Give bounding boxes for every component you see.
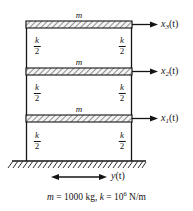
shear-frame-diagram: m m m x3(t) x2(t) x1(t) y(t) k 2 k 2 k 2…: [0, 0, 193, 211]
base-excitation-arrow: [51, 174, 107, 180]
x3-subscript: 3: [165, 23, 169, 31]
spring-numerator: k: [119, 36, 126, 45]
spring-label-story2-right: k 2: [119, 83, 126, 103]
floor-3-mass-label: m: [76, 11, 83, 20]
ground-hatching: [8, 161, 146, 168]
spring-numerator: k: [34, 36, 41, 45]
spring-numerator: k: [119, 131, 126, 140]
spring-denominator: 2: [119, 47, 126, 56]
figure-caption: m = 1000 kg, k = 106 N/m: [0, 192, 193, 202]
spring-numerator: k: [119, 83, 126, 92]
caption-mass-value: 1000 kg,: [64, 192, 97, 202]
displacement-label-x2: x2(t): [161, 66, 178, 76]
displacement-arrows: [132, 21, 158, 121]
floor-3-mass-bar: [26, 21, 132, 28]
arrow-x1: [132, 115, 158, 121]
caption-stiffness-units: N/m: [129, 192, 146, 202]
spring-label-story3-left: k 2: [34, 36, 41, 56]
displacement-label-x3: x3(t): [161, 19, 178, 29]
spring-numerator: k: [34, 83, 41, 92]
displacement-label-x1: x1(t): [161, 113, 178, 123]
x1-subscript: 1: [165, 117, 169, 125]
y-argument: (t): [115, 170, 124, 181]
spring-label-story2-left: k 2: [34, 83, 41, 103]
floor-2-mass-bar: [26, 68, 132, 75]
x2-subscript: 2: [165, 70, 169, 78]
arrow-x2: [132, 68, 158, 74]
floor-1-mass-bar: [26, 115, 132, 122]
frame-columns: [27, 21, 132, 161]
spring-denominator: 2: [119, 94, 126, 103]
spring-label-story1-right: k 2: [119, 131, 126, 151]
floor-2-mass-label: m: [76, 58, 83, 67]
arrow-x3: [132, 21, 158, 27]
spring-label-story1-left: k 2: [34, 131, 41, 151]
x2-argument: (t): [169, 65, 178, 76]
caption-mass-symbol: m: [47, 192, 54, 202]
spring-label-story3-right: k 2: [119, 36, 126, 56]
base-excitation-label: y(t): [111, 171, 125, 181]
ground-support: [8, 161, 146, 168]
x1-argument: (t): [169, 112, 178, 123]
spring-denominator: 2: [34, 94, 41, 103]
x3-argument: (t): [169, 18, 178, 29]
spring-denominator: 2: [119, 142, 126, 151]
diagram-vector-layer: [0, 0, 193, 211]
floor-1-mass-label: m: [76, 105, 83, 114]
spring-denominator: 2: [34, 47, 41, 56]
spring-numerator: k: [34, 131, 41, 140]
spring-denominator: 2: [34, 142, 41, 151]
